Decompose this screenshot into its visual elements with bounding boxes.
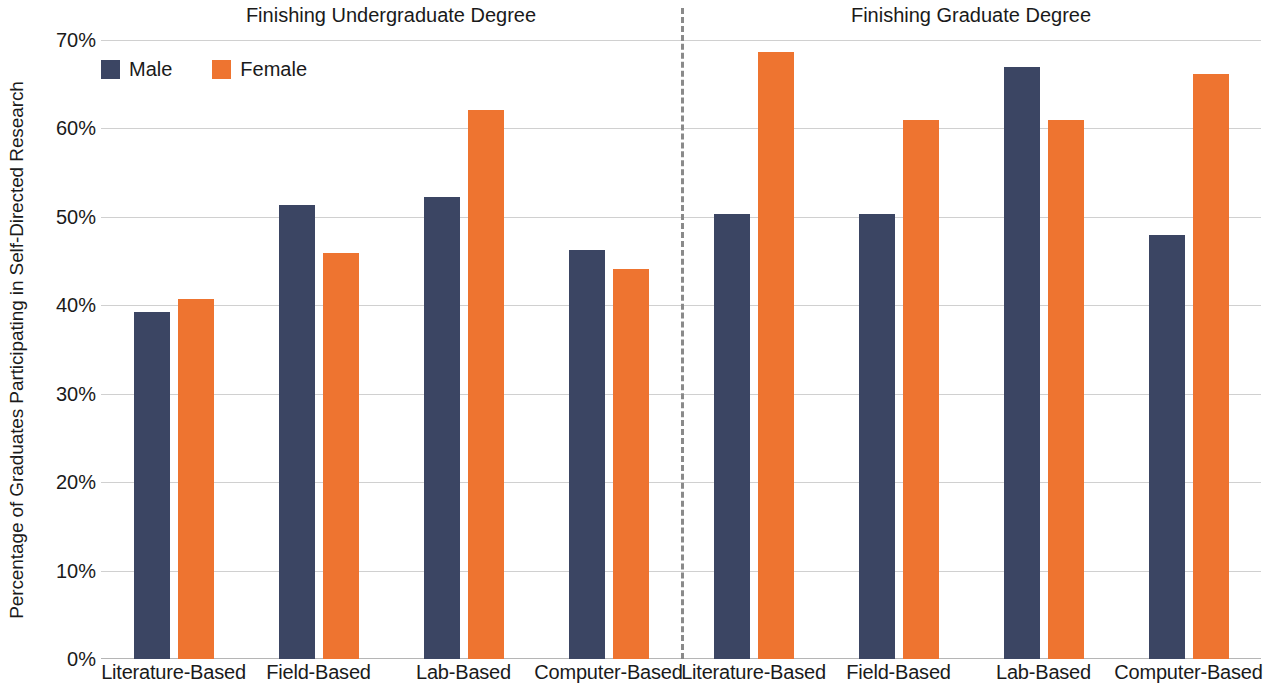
y-axis-tick: 20% <box>34 471 96 494</box>
section-header: Finishing Graduate Degree <box>851 4 1091 27</box>
chart-legend: MaleFemale <box>101 58 307 81</box>
legend-item: Male <box>101 58 172 81</box>
bar-male <box>134 312 170 659</box>
bar-male <box>424 197 460 659</box>
plot-area <box>101 40 1261 659</box>
y-axis-tick: 0% <box>34 648 96 671</box>
x-axis-label: Lab-Based <box>416 661 511 684</box>
bar-female <box>178 299 214 659</box>
bar-male <box>714 214 750 659</box>
x-axis-label: Field-Based <box>846 661 951 684</box>
x-axis-label: Computer-Based <box>534 661 682 684</box>
section-header: Finishing Undergraduate Degree <box>246 4 536 27</box>
y-axis-title: Percentage of Graduates Participating in… <box>0 0 34 700</box>
legend-label: Male <box>129 58 172 81</box>
bar-chart: Percentage of Graduates Participating in… <box>0 0 1268 700</box>
legend-item: Female <box>212 58 307 81</box>
y-axis-tick: 60% <box>34 117 96 140</box>
bar-female <box>613 269 649 659</box>
bar-female <box>903 120 939 659</box>
y-axis-tick: 40% <box>34 294 96 317</box>
x-axis-category-labels: Literature-BasedField-BasedLab-BasedComp… <box>101 661 1261 700</box>
bar-female <box>1193 74 1229 659</box>
section-divider <box>681 8 684 659</box>
x-axis-label: Computer-Based <box>1114 661 1262 684</box>
y-axis-tick-labels: 0%10%20%30%40%50%60%70% <box>34 0 96 700</box>
y-axis-tick: 30% <box>34 382 96 405</box>
y-axis-tick: 10% <box>34 559 96 582</box>
bar-female <box>323 253 359 659</box>
x-axis-label: Field-Based <box>266 661 371 684</box>
y-axis-tick: 70% <box>34 29 96 52</box>
bar-male <box>279 205 315 659</box>
legend-swatch-icon <box>212 60 231 79</box>
y-axis-tick: 50% <box>34 205 96 228</box>
x-axis-label: Literature-Based <box>681 661 826 684</box>
x-axis-label: Lab-Based <box>996 661 1091 684</box>
bar-female <box>1048 120 1084 659</box>
bar-male <box>1149 235 1185 659</box>
bar-female <box>758 52 794 660</box>
legend-swatch-icon <box>101 60 120 79</box>
bar-female <box>468 110 504 659</box>
legend-label: Female <box>240 58 307 81</box>
x-axis-label: Literature-Based <box>101 661 246 684</box>
bar-male <box>569 250 605 659</box>
bar-male <box>1004 67 1040 659</box>
bar-male <box>859 214 895 659</box>
